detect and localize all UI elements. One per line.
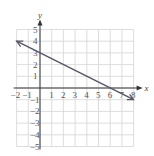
y-tick-label: 4 bbox=[33, 36, 38, 46]
y-axis-arrow-icon bbox=[38, 20, 43, 26]
y-tick-label: 1 bbox=[33, 71, 38, 81]
x-tick-label: 4 bbox=[84, 90, 89, 100]
x-tick-label: 2 bbox=[61, 90, 66, 100]
x-tick-label: 6 bbox=[108, 90, 113, 100]
y-tick-label: −4 bbox=[30, 130, 40, 140]
x-tick-label: 5 bbox=[96, 90, 101, 100]
y-tick-label: 5 bbox=[33, 25, 38, 35]
y-tick-label: −2 bbox=[30, 106, 40, 116]
x-tick-label: 1 bbox=[49, 90, 54, 100]
y-tick-label: −5 bbox=[30, 142, 40, 152]
x-tick-label: 3 bbox=[73, 90, 78, 100]
line-graph: xy−2−11234567854321−1−2−3−4−5 bbox=[0, 0, 154, 156]
y-tick-label: −1 bbox=[30, 95, 40, 105]
x-axis-label: x bbox=[144, 83, 149, 93]
y-axis-label: y bbox=[37, 10, 42, 20]
x-tick-label: −2 bbox=[11, 90, 21, 100]
x-axis-arrow-icon bbox=[137, 86, 143, 91]
y-tick-label: 2 bbox=[33, 60, 38, 70]
y-tick-label: −3 bbox=[30, 118, 40, 128]
